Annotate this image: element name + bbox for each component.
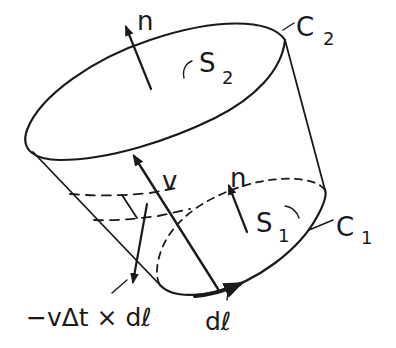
label-c1: C bbox=[336, 212, 354, 242]
s2-leader bbox=[183, 61, 192, 78]
label-strip-vector: −vΔt × dℓ bbox=[26, 303, 152, 332]
strip-side bbox=[122, 195, 137, 218]
label-c2-subscript: 2 bbox=[323, 28, 334, 49]
bottom-curve-c1-front bbox=[160, 190, 326, 295]
dl-leader bbox=[227, 292, 228, 300]
c2-leader bbox=[283, 23, 294, 30]
top-curve-c2 bbox=[25, 24, 285, 161]
flux-surface-diagram: n n S 2 S 1 C 2 C 1 v −vΔt × dℓ dℓ bbox=[0, 0, 396, 348]
label-n-top: n bbox=[137, 6, 153, 36]
label-s2: S bbox=[199, 48, 216, 78]
label-c1-subscript: 1 bbox=[361, 227, 372, 248]
label-s1-subscript: 1 bbox=[278, 225, 289, 246]
cone-right-edge bbox=[285, 40, 325, 190]
s1-leader bbox=[285, 206, 299, 218]
strip-vector-leader bbox=[112, 280, 127, 293]
label-n-bottom: n bbox=[230, 163, 246, 193]
strip-lower-edge bbox=[94, 209, 190, 220]
cone-left-edge bbox=[33, 152, 160, 285]
label-velocity: v bbox=[162, 166, 177, 196]
strip-upper-edge bbox=[70, 188, 176, 195]
normal-top-arrow bbox=[126, 27, 151, 89]
label-c2: C bbox=[296, 12, 314, 42]
label-s2-subscript: 2 bbox=[222, 67, 233, 88]
label-s1: S bbox=[256, 208, 273, 238]
label-dl: dℓ bbox=[205, 307, 231, 336]
